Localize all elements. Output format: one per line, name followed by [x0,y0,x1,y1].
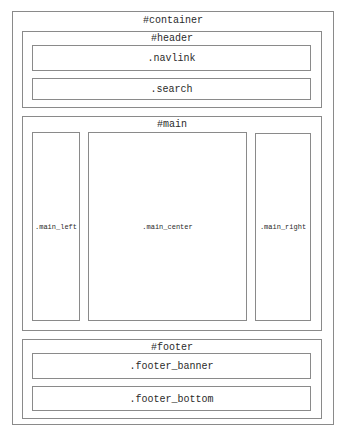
footer-bottom-label: .footer_bottom [33,393,310,404]
main-left-box: .main_left [32,132,80,321]
navlink-box: .navlink [32,45,311,71]
container-label: #container [13,15,333,26]
navlink-label: .navlink [33,53,310,64]
header-label: #header [23,33,321,44]
main-right-box: .main_right [255,133,311,321]
search-box: .search [32,78,311,100]
main-center-label: .main_center [89,223,246,231]
main-label: #main [23,119,321,130]
footer-bottom-box: .footer_bottom [32,386,311,411]
footer-banner-box: .footer_banner [32,353,311,379]
main-right-label: .main_right [256,223,310,231]
footer-banner-label: .footer_banner [33,361,310,372]
footer-label: #footer [23,342,321,353]
main-left-label: .main_left [33,223,79,231]
search-label: .search [33,84,310,95]
main-center-box: .main_center [88,132,247,321]
